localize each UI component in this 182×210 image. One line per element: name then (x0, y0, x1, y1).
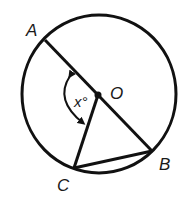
label-a: A (25, 21, 37, 40)
center-point-o (95, 92, 102, 99)
label-c: C (57, 176, 70, 195)
angle-label-x: x° (73, 93, 88, 110)
label-b: B (159, 155, 170, 174)
label-o: O (110, 84, 123, 103)
circle-diagram: A O B C x° (0, 0, 182, 210)
